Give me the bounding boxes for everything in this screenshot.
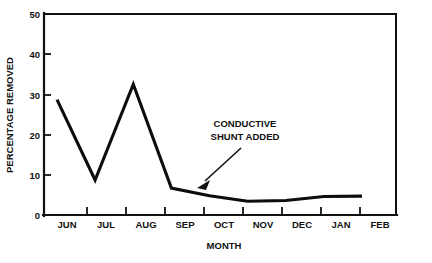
annotation-arrow-shaft: [205, 148, 241, 181]
x-tick-label: JUN: [57, 219, 76, 230]
line-chart: 50 40 30 20 10 0 JUN JUL AUG SEP OCT NOV: [0, 0, 432, 263]
x-tick-label: FEB: [371, 219, 390, 230]
y-tick-label: 10: [29, 170, 40, 181]
y-tick-label: 30: [29, 90, 40, 101]
x-tick-label: JAN: [331, 219, 350, 230]
y-axis-title: PERCENTAGE REMOVED: [4, 57, 15, 173]
x-tick-label: NOV: [253, 219, 274, 230]
plot-frame: [44, 14, 396, 215]
annotation-line-2: SHUNT ADDED: [211, 131, 280, 142]
y-tick-label: 20: [29, 130, 40, 141]
x-tick-label: OCT: [214, 219, 234, 230]
chart-container: 50 40 30 20 10 0 JUN JUL AUG SEP OCT NOV: [0, 0, 432, 263]
x-tick-marks: [87, 207, 360, 215]
y-tick-label: 40: [29, 49, 40, 60]
annotation-arrow-head: [197, 180, 210, 190]
y-tick-label: 50: [29, 9, 40, 20]
y-tick-label: 0: [35, 210, 40, 221]
x-tick-label: JUL: [97, 219, 115, 230]
x-tick-labels: JUN JUL AUG SEP OCT NOV DEC JAN FEB: [57, 219, 389, 230]
annotation-conductive-shunt: CONDUCTIVE SHUNT ADDED: [197, 118, 280, 190]
data-series-line: [57, 84, 362, 201]
x-tick-label: SEP: [175, 219, 195, 230]
x-tick-label: AUG: [135, 219, 156, 230]
x-tick-label: DEC: [292, 219, 312, 230]
annotation-line-1: CONDUCTIVE: [214, 118, 277, 129]
y-tick-labels: 50 40 30 20 10 0: [29, 9, 40, 221]
x-axis-title: MONTH: [207, 240, 242, 251]
